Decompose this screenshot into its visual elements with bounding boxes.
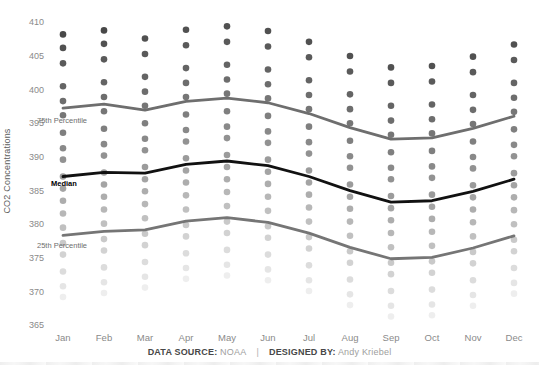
data-point[interactable] xyxy=(60,294,67,301)
data-point[interactable] xyxy=(142,164,149,171)
data-point[interactable] xyxy=(511,248,518,255)
data-point[interactable] xyxy=(224,108,231,115)
data-point[interactable] xyxy=(101,79,108,86)
data-point[interactable] xyxy=(101,94,108,101)
data-point[interactable] xyxy=(306,277,313,284)
data-point[interactable] xyxy=(224,90,231,97)
data-point[interactable] xyxy=(224,39,231,46)
data-point[interactable] xyxy=(265,277,272,284)
data-point[interactable] xyxy=(470,292,477,299)
data-point[interactable] xyxy=(511,221,518,228)
data-point[interactable] xyxy=(511,94,518,101)
data-point[interactable] xyxy=(470,92,477,99)
data-point[interactable] xyxy=(511,265,518,272)
data-point[interactable] xyxy=(429,228,436,235)
data-point[interactable] xyxy=(101,152,108,159)
data-point[interactable] xyxy=(101,125,108,132)
data-point[interactable] xyxy=(60,98,67,105)
data-point[interactable] xyxy=(60,129,67,136)
data-point[interactable] xyxy=(60,197,67,204)
data-point[interactable] xyxy=(470,233,477,240)
data-point[interactable] xyxy=(306,245,313,252)
data-point[interactable] xyxy=(347,153,354,160)
data-point[interactable] xyxy=(142,215,149,222)
data-point[interactable] xyxy=(142,201,149,208)
data-point[interactable] xyxy=(101,193,108,200)
data-point[interactable] xyxy=(101,220,108,227)
data-point[interactable] xyxy=(347,193,354,200)
data-point[interactable] xyxy=(265,234,272,241)
data-point[interactable] xyxy=(388,217,395,224)
data-point[interactable] xyxy=(388,193,395,200)
data-point[interactable] xyxy=(265,66,272,73)
data-point[interactable] xyxy=(511,153,518,160)
data-point[interactable] xyxy=(306,92,313,99)
data-point[interactable] xyxy=(142,274,149,281)
data-point[interactable] xyxy=(388,64,395,71)
data-point[interactable] xyxy=(388,288,395,295)
data-point[interactable] xyxy=(224,152,231,159)
data-point[interactable] xyxy=(470,53,477,60)
data-point[interactable] xyxy=(183,276,190,283)
percentile-25-line[interactable] xyxy=(63,218,514,259)
data-point[interactable] xyxy=(306,191,313,198)
data-point[interactable] xyxy=(265,208,272,215)
data-point[interactable] xyxy=(265,193,272,200)
data-point[interactable] xyxy=(347,218,354,225)
data-point[interactable] xyxy=(347,138,354,145)
data-point[interactable] xyxy=(224,61,231,68)
data-point[interactable] xyxy=(142,230,149,237)
data-point[interactable] xyxy=(306,77,313,84)
data-point[interactable] xyxy=(470,182,477,189)
data-point[interactable] xyxy=(60,145,67,152)
data-point[interactable] xyxy=(224,247,231,254)
data-point[interactable] xyxy=(511,126,518,133)
data-point[interactable] xyxy=(429,312,436,319)
data-point[interactable] xyxy=(429,286,436,293)
data-point[interactable] xyxy=(183,179,190,186)
data-point[interactable] xyxy=(142,88,149,95)
data-point[interactable] xyxy=(388,313,395,320)
data-point[interactable] xyxy=(265,251,272,258)
data-point[interactable] xyxy=(265,156,272,163)
data-point[interactable] xyxy=(429,191,436,198)
data-point[interactable] xyxy=(306,39,313,46)
data-point[interactable] xyxy=(265,81,272,88)
data-point[interactable] xyxy=(60,156,67,163)
data-point[interactable] xyxy=(183,111,190,118)
data-point[interactable] xyxy=(306,150,313,157)
data-point[interactable] xyxy=(183,26,190,33)
data-point[interactable] xyxy=(224,261,231,268)
data-point[interactable] xyxy=(429,78,436,85)
data-point[interactable] xyxy=(101,247,108,254)
data-point[interactable] xyxy=(347,232,354,239)
data-point[interactable] xyxy=(388,230,395,237)
data-point[interactable] xyxy=(347,302,354,309)
data-point[interactable] xyxy=(265,113,272,120)
data-point[interactable] xyxy=(265,181,272,188)
data-point[interactable] xyxy=(511,57,518,64)
data-point[interactable] xyxy=(429,175,436,182)
data-point[interactable] xyxy=(101,141,108,148)
data-point[interactable] xyxy=(388,271,395,278)
data-point[interactable] xyxy=(101,181,108,188)
data-point[interactable] xyxy=(183,65,190,72)
data-point[interactable] xyxy=(183,167,190,174)
data-point[interactable] xyxy=(142,147,149,154)
data-point[interactable] xyxy=(183,127,190,134)
data-point[interactable] xyxy=(60,224,67,231)
data-point[interactable] xyxy=(347,276,354,283)
data-point[interactable] xyxy=(101,264,108,271)
data-point[interactable] xyxy=(388,205,395,212)
data-point[interactable] xyxy=(60,251,67,258)
data-point[interactable] xyxy=(101,236,108,243)
data-point[interactable] xyxy=(142,284,149,291)
data-point[interactable] xyxy=(388,102,395,109)
data-point[interactable] xyxy=(224,203,231,210)
data-point[interactable] xyxy=(142,259,149,266)
data-point[interactable] xyxy=(265,266,272,273)
data-point[interactable] xyxy=(388,259,395,266)
data-point[interactable] xyxy=(142,74,149,81)
data-point[interactable] xyxy=(183,233,190,240)
data-point[interactable] xyxy=(470,277,477,284)
